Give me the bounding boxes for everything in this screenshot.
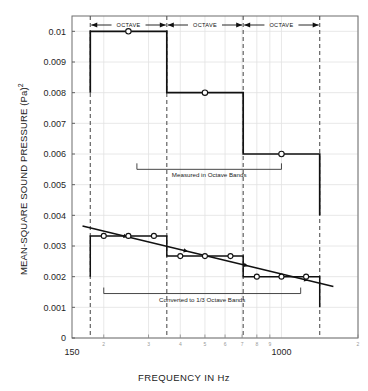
x-minor-tick-label: 5: [204, 341, 207, 347]
octave-span-label: OCTAVE: [269, 22, 293, 28]
y-axis-label-exponent: 2: [17, 83, 24, 87]
y-tick-label: 0.008: [43, 88, 66, 98]
third-octave-band-marker: [126, 233, 131, 238]
bracket-annotations: Measured in Octave BandsConverted to 1/3…: [104, 163, 301, 302]
octave-span-arrow-left: [168, 22, 174, 27]
x-minor-tick-label: 2: [357, 341, 360, 347]
y-axis-label: MEAN-SQUARE SOUND PRESSURE (Pa)2: [17, 64, 29, 294]
y-tick-label: 0.002: [43, 272, 66, 282]
y-tick-label: 0.006: [43, 149, 66, 159]
y-tick-label: 0: [61, 333, 66, 343]
measured-bracket-label: Measured in Octave Bands: [172, 171, 247, 178]
third-octave-band-marker: [178, 254, 183, 259]
y-tick-label: 0.004: [43, 211, 66, 221]
plot-canvas: 00.0010.0020.0030.0040.0050.0060.0070.00…: [0, 0, 368, 391]
octave-band-marker: [126, 29, 131, 34]
octave-span-arrow-left: [244, 22, 250, 27]
chart-figure: MEAN-SQUARE SOUND PRESSURE (Pa)2 FREQUEN…: [0, 0, 368, 391]
y-tick-label: 0.005: [43, 180, 66, 190]
x-minor-tick-label: 3: [147, 341, 150, 347]
octave-span-arrow-left: [91, 22, 97, 27]
y-tick-label: 0.003: [43, 241, 66, 251]
y-axis-label-text: MEAN-SQUARE SOUND PRESSURE (Pa): [18, 87, 29, 275]
octave-span-annotations: OCTAVEOCTAVEOCTAVE: [91, 22, 318, 28]
octave-band-marker: [279, 151, 284, 156]
third-octave-band-marker: [228, 254, 233, 259]
y-axis-ticks: 00.0010.0020.0030.0040.0050.0060.0070.00…: [43, 27, 75, 344]
third-octave-band-marker: [101, 233, 106, 238]
x-major-tick-label: 1000: [271, 347, 291, 357]
third-octave-band-marker: [151, 233, 156, 238]
octave-span-arrow-right: [313, 22, 319, 27]
x-axis-label: FREQUENCY IN Hz: [0, 372, 368, 383]
y-tick-label: 0.001: [43, 303, 66, 313]
x-minor-tick-label: 8: [255, 341, 258, 347]
octave-span-label: OCTAVE: [193, 22, 217, 28]
x-minor-tick-label: 9: [268, 341, 271, 347]
x-minor-tick-label: 7: [241, 341, 244, 347]
octave-span-arrow-right: [236, 22, 242, 27]
converted-bracket-label: Converted to 1/3 Octave Bands: [159, 296, 245, 303]
octave-band-marker: [202, 90, 207, 95]
x-minor-tick-label: 4: [179, 341, 182, 347]
octave-span-label: OCTAVE: [117, 22, 141, 28]
y-tick-label: 0.007: [43, 119, 66, 129]
third-octave-band-marker: [279, 274, 284, 279]
x-major-tick-label: 150: [64, 347, 79, 357]
y-tick-label: 0.01: [48, 27, 66, 37]
third-octave-band-marker: [202, 254, 207, 259]
octave-span-arrow-right: [160, 22, 166, 27]
x-minor-tick-label: 6: [224, 341, 227, 347]
third-octave-band-marker: [304, 274, 309, 279]
y-tick-label: 0.009: [43, 57, 66, 67]
third-octave-band-marker: [254, 274, 259, 279]
x-minor-tick-label: 2: [102, 341, 105, 347]
